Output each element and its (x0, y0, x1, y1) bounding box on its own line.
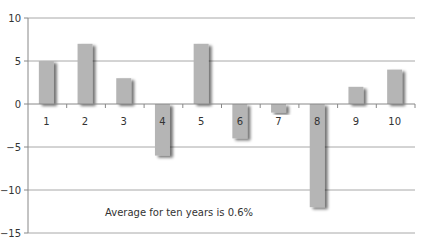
x-tick-label: 8 (314, 116, 320, 127)
bar-9 (348, 87, 363, 104)
y-tick-label: −10 (0, 185, 21, 196)
x-tick-label: 7 (275, 116, 281, 127)
bar-3 (116, 78, 131, 104)
y-tick-label: −15 (0, 228, 21, 239)
x-tick-label: 5 (198, 116, 204, 127)
y-tick-label: 10 (8, 13, 21, 24)
bar-7 (271, 104, 286, 113)
x-tick-label: 1 (43, 116, 49, 127)
x-tick-label: 6 (237, 116, 243, 127)
bar-5 (194, 44, 209, 104)
average-annotation: Average for ten years is 0.6% (105, 207, 253, 218)
y-tick-label: −5 (6, 142, 21, 153)
y-axis: 1050−5−10−15 (0, 13, 28, 239)
x-tick-label: 10 (388, 116, 401, 127)
x-tick-label: 4 (159, 116, 165, 127)
x-tick-label: 9 (353, 116, 359, 127)
y-tick-label: 0 (15, 99, 21, 110)
y-tick-label: 5 (15, 56, 21, 67)
bars (39, 44, 402, 207)
bar-4 (155, 104, 170, 156)
x-tick-label: 2 (82, 116, 88, 127)
x-tick-label: 3 (121, 116, 127, 127)
bar-chart: 1050−5−10−15 12345678910 Average for ten… (0, 0, 425, 248)
x-axis: 12345678910 (28, 104, 415, 127)
bar-2 (78, 44, 93, 104)
bar-1 (39, 61, 54, 104)
bar-10 (387, 70, 402, 104)
